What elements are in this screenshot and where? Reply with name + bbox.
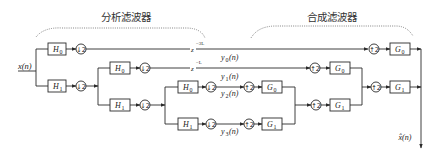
svg-text:y: y — [220, 53, 225, 62]
svg-text:−L: −L — [196, 60, 202, 65]
svg-text:G: G — [335, 64, 341, 73]
svg-text:1: 1 — [190, 124, 193, 130]
svg-text:z: z — [190, 65, 194, 73]
svg-text:x(n): x(n) — [17, 61, 32, 71]
svg-text:1: 1 — [402, 87, 405, 93]
svg-text:G: G — [267, 83, 273, 92]
filter-bank-diagram: 分析滤波器 合成滤波器 x(n) H 0 ↓2 z −3L H 1 ↓2 — [0, 0, 441, 150]
svg-text:↓2: ↓2 — [206, 84, 216, 92]
svg-text:1: 1 — [274, 124, 277, 130]
analysis-block-h0-stage2: H 0 — [110, 62, 130, 74]
downsample-op-1: ↓2 — [76, 81, 86, 91]
svg-text:y: y — [220, 89, 225, 98]
synthesis-block-g1-stage2: G 1 — [330, 99, 350, 111]
svg-text:1: 1 — [122, 105, 125, 111]
subband-label-y2: y 2 (n) — [220, 89, 239, 99]
svg-text:↑2: ↑2 — [369, 46, 379, 54]
svg-text:↑2: ↑2 — [310, 65, 320, 73]
svg-text:0: 0 — [342, 68, 345, 74]
svg-text:−3L: −3L — [196, 41, 204, 46]
upsample-op-1: ↑2 — [244, 119, 254, 129]
svg-text:0: 0 — [274, 87, 277, 93]
downsample-op-4: ↓2 — [206, 82, 216, 92]
analysis-block-h1-stage2: H 1 — [110, 99, 130, 111]
analysis-block-h0-stage3: H 0 — [178, 81, 198, 93]
downsample-op-5: ↓2 — [206, 119, 216, 129]
svg-text:x̂(n): x̂(n) — [398, 133, 412, 142]
analysis-filter-title: 分析滤波器 — [101, 11, 152, 23]
subband-label-y1: y 1 (n) — [220, 72, 239, 82]
svg-text:↓2: ↓2 — [140, 65, 150, 73]
delay-z-3L: z −3L — [190, 41, 204, 54]
synthesis-bracket — [251, 26, 413, 38]
synthesis-block-g0-stage1: G 0 — [262, 81, 282, 93]
svg-text:↓2: ↓2 — [206, 121, 216, 129]
svg-text:↑2: ↑2 — [311, 102, 321, 110]
delay-z-L: z −L — [190, 60, 202, 73]
svg-text:G: G — [395, 45, 401, 54]
synthesis-block-g1-stage3: G 1 — [390, 81, 410, 93]
svg-text:0: 0 — [402, 49, 405, 55]
svg-text:y: y — [220, 72, 225, 81]
upsample-op-2: ↑2 — [310, 63, 320, 73]
subband-label-y0: y 0 (n) — [220, 53, 239, 63]
synthesis-block-g0-stage2: G 0 — [330, 62, 350, 74]
svg-text:G: G — [395, 83, 401, 92]
svg-text:(n): (n) — [229, 127, 239, 136]
svg-text:1: 1 — [342, 105, 345, 111]
upsample-op-5: ↑2 — [371, 82, 381, 92]
upsample-op-3: ↑2 — [311, 100, 321, 110]
svg-text:↓2: ↓2 — [76, 83, 86, 91]
svg-text:↓2: ↓2 — [140, 102, 150, 110]
upsample-op-0: ↑2 — [244, 82, 254, 92]
subband-label-y3: y 3 (n) — [220, 127, 239, 137]
synthesis-filter-title: 合成滤波器 — [307, 11, 358, 23]
svg-text:(n): (n) — [229, 53, 239, 62]
analysis-block-h1-stage1: H 1 — [48, 80, 66, 92]
input-signal-label: x(n) — [17, 61, 32, 71]
downsample-op-0: ↓2 — [76, 44, 86, 54]
synthesis-block-g1-stage1: G 1 — [262, 118, 282, 130]
svg-text:0: 0 — [122, 68, 125, 74]
svg-text:↓2: ↓2 — [76, 46, 86, 54]
svg-text:0: 0 — [190, 87, 193, 93]
svg-text:G: G — [335, 101, 341, 110]
analysis-bracket — [36, 28, 205, 38]
output-signal-label: x̂(n) — [398, 133, 412, 142]
svg-text:↑2: ↑2 — [244, 121, 254, 129]
downsample-op-3: ↓2 — [140, 100, 150, 110]
svg-text:(n): (n) — [229, 72, 239, 81]
analysis-block-h1-stage3: H 1 — [178, 118, 198, 130]
svg-text:↑2: ↑2 — [244, 84, 254, 92]
downsample-op-2: ↓2 — [140, 63, 150, 73]
svg-text:1: 1 — [60, 86, 63, 92]
svg-text:↑2: ↑2 — [371, 84, 381, 92]
svg-text:z: z — [190, 46, 194, 54]
synthesis-block-g0-stage3: G 0 — [390, 43, 410, 55]
analysis-block-h0-stage1: H 0 — [48, 43, 66, 55]
svg-text:G: G — [267, 120, 273, 129]
upsample-op-4: ↑2 — [369, 44, 379, 54]
svg-text:0: 0 — [60, 49, 63, 55]
svg-text:(n): (n) — [229, 89, 239, 98]
svg-text:y: y — [220, 127, 225, 136]
